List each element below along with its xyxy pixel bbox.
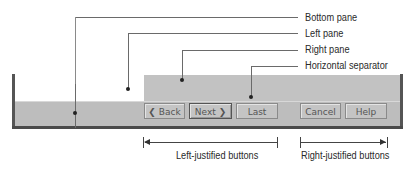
callout-line-right-pane-vertical (182, 50, 183, 80)
window-right-border (400, 74, 403, 129)
callout-label-right-pane: Right pane (305, 44, 350, 56)
bracket-right-end (387, 137, 388, 148)
arrow-left-icon (144, 139, 150, 145)
callout-line-separator-vertical (251, 66, 252, 97)
label-right-justified-buttons: Right-justified buttons (301, 150, 389, 162)
bracket-left-line (145, 142, 277, 143)
help-button[interactable]: Help (345, 103, 387, 119)
next-button[interactable]: Next ❯ (189, 103, 232, 119)
horizontal-separator (14, 101, 400, 102)
callout-label-bottom-pane: Bottom pane (305, 12, 357, 24)
callout-dot-bottom-pane (73, 111, 77, 115)
callout-dot-right-pane (180, 78, 184, 82)
callout-line-bottom-pane-vertical-top (75, 17, 76, 84)
callout-line-separator (251, 66, 298, 67)
callout-line-bottom-pane-vertical (75, 84, 76, 128)
cancel-button[interactable]: Cancel (300, 103, 341, 119)
bracket-right-line (300, 142, 386, 143)
window-bottom-border (12, 126, 403, 129)
callout-label-horizontal-separator: Horizontal separator (305, 60, 388, 72)
callout-line-right-pane (182, 50, 298, 51)
callout-dot-left-pane (126, 87, 130, 91)
callout-line-left-pane (128, 33, 298, 34)
arrow-right-icon (380, 139, 386, 145)
back-button[interactable]: ❮ Back (144, 103, 185, 119)
last-button[interactable]: Last (236, 103, 278, 119)
window-left-border (12, 74, 15, 129)
callout-label-left-pane: Left pane (305, 28, 343, 40)
label-left-justified-buttons: Left-justified buttons (176, 150, 258, 162)
callout-line-bottom-pane (75, 17, 298, 18)
callout-line-left-pane-vertical (128, 33, 129, 90)
callout-dot-separator (249, 95, 253, 99)
bracket-left-end (277, 137, 278, 148)
